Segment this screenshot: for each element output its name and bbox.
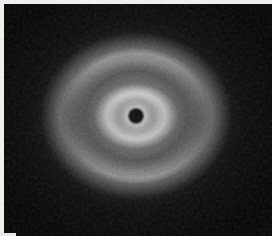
scan-margin-top [0,0,272,4]
scan-margin-bottom-left [0,233,16,236]
diffraction-plate [4,4,272,236]
diffraction-figure [0,0,272,236]
film-plate-frame [0,0,272,236]
scan-margin-left [0,0,4,236]
beam-stop-icon [129,109,143,123]
